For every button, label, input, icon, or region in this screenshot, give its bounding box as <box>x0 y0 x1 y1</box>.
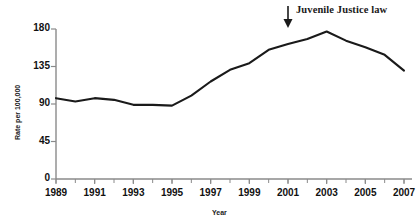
x-tick-label: 1991 <box>75 187 115 198</box>
x-tick-label: 1989 <box>36 187 76 198</box>
x-tick-label: 2003 <box>307 187 347 198</box>
data-series-line <box>56 32 404 106</box>
chart-figure: Juvenile Justice law Rate per 100,000 Ye… <box>0 0 420 224</box>
x-tick-label: 2007 <box>384 187 420 198</box>
y-tick-label: 90 <box>20 97 50 108</box>
y-tick-label: 45 <box>20 135 50 146</box>
x-tick-label: 2005 <box>345 187 385 198</box>
y-tick-label: 180 <box>20 22 50 33</box>
y-tick-label: 0 <box>20 172 50 183</box>
annotation-label-juvenile-justice-law: Juvenile Justice law <box>296 4 387 15</box>
y-axis-ticks <box>51 29 56 179</box>
annotation-down-arrow-icon <box>284 6 293 28</box>
x-tick-label: 2001 <box>268 187 308 198</box>
x-tick-label: 1997 <box>191 187 231 198</box>
y-tick-label: 135 <box>20 60 50 71</box>
y-axis-title: Rate per 100,000 <box>14 85 21 140</box>
x-axis-title: Year <box>212 209 227 216</box>
x-tick-label: 1995 <box>152 187 192 198</box>
x-tick-label: 1999 <box>229 187 269 198</box>
x-tick-label: 1993 <box>113 187 153 198</box>
